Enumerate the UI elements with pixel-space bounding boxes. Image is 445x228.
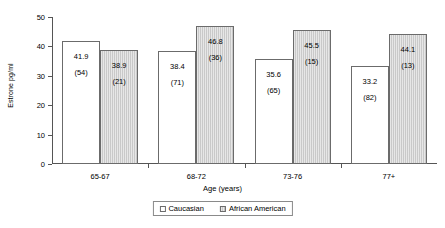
- x-category-label: 68-72: [158, 172, 234, 181]
- legend-item-caucasian: Caucasian: [159, 204, 203, 213]
- legend-label-african-american: African American: [229, 204, 286, 213]
- bar-count-label: (21): [101, 77, 137, 86]
- bar-value-label: 35.6: [256, 70, 292, 79]
- bar-caucasian-68-72: 38.4(71): [158, 51, 196, 164]
- bar-group: 38.4(71)46.8(36): [158, 17, 234, 164]
- y-tick: [48, 76, 52, 77]
- y-tick: [48, 135, 52, 136]
- bar-value-label: 38.4: [159, 62, 195, 71]
- bar-value-label: 41.9: [63, 52, 99, 61]
- bar-group: 41.9(54)38.9(21): [62, 17, 138, 164]
- y-tick: [48, 164, 52, 165]
- y-axis-title: Estrone pg/ml: [3, 0, 17, 170]
- legend-item-african-american: African American: [220, 204, 286, 213]
- y-axis-line: [52, 17, 53, 164]
- bar-count-label: (82): [352, 93, 388, 102]
- x-axis-title: Age (years): [0, 184, 445, 193]
- y-tick-label: 0: [41, 160, 45, 169]
- estrone-by-age-bar-chart: Estrone pg/ml 01020304050 41.9(54)38.9(2…: [0, 0, 445, 228]
- x-category-label: 65-67: [62, 172, 138, 181]
- y-tick: [48, 17, 52, 18]
- bar-african-american-77+: 44.1(13): [389, 34, 427, 164]
- bar-count-label: (13): [390, 61, 426, 70]
- bar-caucasian-65-67: 41.9(54): [62, 41, 100, 164]
- bar-value-label: 44.1: [390, 45, 426, 54]
- bar-caucasian-77+: 33.2(82): [351, 66, 389, 164]
- open-square-icon: [159, 206, 165, 212]
- bar-group: 33.2(82)44.1(13): [351, 17, 427, 164]
- y-tick-label: 40: [37, 42, 45, 51]
- shaded-square-icon: [220, 206, 226, 212]
- x-tick: [148, 164, 149, 168]
- bar-value-label: 38.9: [101, 61, 137, 70]
- x-tick: [341, 164, 342, 168]
- y-axis-title-text: Estrone pg/ml: [7, 63, 14, 108]
- plot-area: 01020304050 41.9(54)38.9(21)38.4(71)46.8…: [52, 17, 437, 164]
- y-tick-label: 20: [37, 101, 45, 110]
- bar-value-label: 33.2: [352, 77, 388, 86]
- y-tick-label: 10: [37, 130, 45, 139]
- bar-value-label: 45.5: [294, 41, 330, 50]
- bar-african-american-68-72: 46.8(36): [196, 26, 234, 164]
- y-tick-label: 50: [37, 13, 45, 22]
- bar-group: 35.6(65)45.5(15): [255, 17, 331, 164]
- bar-value-label: 46.8: [197, 37, 233, 46]
- legend-label-caucasian: Caucasian: [168, 204, 203, 213]
- bar-count-label: (71): [159, 78, 195, 87]
- y-tick: [48, 105, 52, 106]
- bar-count-label: (54): [63, 68, 99, 77]
- bar-african-american-65-67: 38.9(21): [100, 50, 138, 164]
- x-category-label: 77+: [351, 172, 427, 181]
- bar-caucasian-73-76: 35.6(65): [255, 59, 293, 164]
- x-tick: [245, 164, 246, 168]
- chart-legend: Caucasian African American: [152, 201, 292, 216]
- x-category-label: 73-76: [255, 172, 331, 181]
- bar-count-label: (36): [197, 53, 233, 62]
- bar-african-american-73-76: 45.5(15): [293, 30, 331, 164]
- y-tick: [48, 46, 52, 47]
- bar-count-label: (15): [294, 57, 330, 66]
- y-tick-label: 30: [37, 71, 45, 80]
- bar-count-label: (65): [256, 86, 292, 95]
